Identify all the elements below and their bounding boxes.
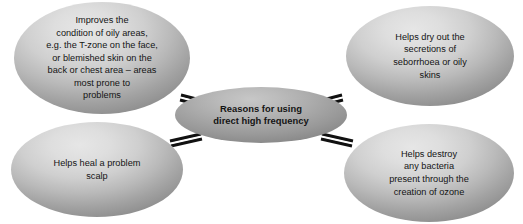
diagram-canvas: Improves the condition of oily areas, e.… [0,0,523,224]
node-ozone: Helps destroy any bacteria present throu… [344,124,514,222]
node-scalp: Helps heal a problem scalp [11,122,183,217]
node-oily-areas: Improves the condition of oily areas, e.… [14,2,190,114]
node-hub-central: Reasons for using direct high frequency [175,87,347,143]
node-scalp-label: Helps heal a problem scalp [11,157,183,182]
node-seborrhoea-label: Helps dry out the secretions of seborrho… [346,31,514,81]
node-oily-areas-label: Improves the condition of oily areas, e.… [14,14,190,102]
connector-hub-to-scalp [170,134,202,146]
node-ozone-label: Helps destroy any bacteria present throu… [344,148,514,198]
node-seborrhoea: Helps dry out the secretions of seborrho… [346,6,514,106]
node-hub-label: Reasons for using direct high frequency [175,103,347,128]
connector-hub-to-ozone [321,134,353,146]
